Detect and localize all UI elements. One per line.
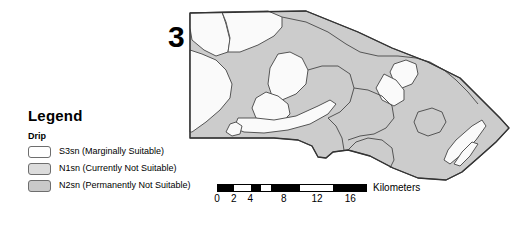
scale-bar-track bbox=[217, 184, 367, 192]
scale-bar-tick-label: 2 bbox=[231, 193, 237, 204]
legend-item-n2sn[interactable]: N2sn (Permanently Not Suitable) bbox=[28, 178, 223, 193]
legend-swatch-s3sn-icon bbox=[28, 146, 51, 158]
legend-item-n1sn[interactable]: N1sn (Currently Not Suitable) bbox=[28, 161, 223, 176]
legend-panel: Legend Drip S3sn (Marginally Suitable) N… bbox=[28, 108, 223, 193]
scale-bar: 02481216 Kilometers bbox=[217, 184, 367, 206]
scale-bar-segment bbox=[271, 185, 301, 191]
scale-bar-tick-label: 0 bbox=[214, 193, 220, 204]
legend-item-label: N2sn (Permanently Not Suitable) bbox=[59, 181, 191, 191]
map-figure: 3 Legend Drip S3sn (Marginally Suitable)… bbox=[0, 0, 531, 227]
scale-bar-units-label: Kilometers bbox=[373, 182, 420, 193]
scale-bar-tick-labels: 02481216 bbox=[217, 193, 367, 206]
legend-group-label-drip: Drip bbox=[28, 132, 223, 142]
scale-bar-segment bbox=[300, 185, 333, 191]
scale-bar-tick-label: 16 bbox=[345, 193, 356, 204]
scale-bar-tick-label: 4 bbox=[248, 193, 254, 204]
legend-item-list: S3sn (Marginally Suitable) N1sn (Current… bbox=[28, 144, 223, 193]
legend-swatch-n1sn-icon bbox=[28, 163, 51, 175]
legend-title: Legend bbox=[28, 108, 223, 125]
scale-bar-segment bbox=[261, 185, 271, 191]
scale-bar-segment bbox=[333, 185, 366, 191]
scale-bar-tick-label: 12 bbox=[311, 193, 322, 204]
scale-bar-segment bbox=[234, 185, 250, 191]
legend-item-label: N1sn (Currently Not Suitable) bbox=[59, 164, 177, 174]
legend-swatch-n2sn-icon bbox=[28, 180, 51, 192]
map-canvas[interactable] bbox=[178, 0, 531, 182]
legend-item-label: S3sn (Marginally Suitable) bbox=[59, 147, 164, 157]
map-index-label: 3 bbox=[168, 22, 184, 52]
legend-item-s3sn[interactable]: S3sn (Marginally Suitable) bbox=[28, 144, 223, 159]
suitability-polygon-graphic bbox=[178, 0, 531, 182]
scale-bar-segment bbox=[251, 185, 261, 191]
scale-bar-tick-label: 8 bbox=[281, 193, 287, 204]
scale-bar-segment bbox=[218, 185, 234, 191]
